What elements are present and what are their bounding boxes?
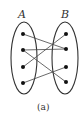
set-a-label: A bbox=[17, 8, 26, 21]
point-b2 bbox=[64, 47, 68, 51]
mapping-a1-b2 bbox=[23, 34, 66, 49]
mapping-a3-b1 bbox=[23, 34, 66, 67]
point-a1 bbox=[21, 32, 25, 36]
mapping-a4-b3 bbox=[23, 67, 66, 83]
point-b4 bbox=[64, 80, 68, 84]
point-b1 bbox=[64, 32, 68, 36]
caption: (a) bbox=[37, 102, 49, 112]
mapping-diagram: A B (a) bbox=[0, 0, 84, 115]
point-a3 bbox=[21, 65, 25, 69]
point-a2 bbox=[21, 48, 25, 52]
mapping-arrows bbox=[23, 34, 66, 83]
set-a-points bbox=[21, 32, 25, 85]
point-a4 bbox=[21, 81, 25, 85]
mapping-a2-b2 bbox=[23, 49, 66, 50]
set-b-label: B bbox=[60, 8, 69, 21]
point-b3 bbox=[64, 65, 68, 69]
set-b-points bbox=[64, 32, 68, 84]
mapping-a2-b4 bbox=[23, 50, 66, 82]
